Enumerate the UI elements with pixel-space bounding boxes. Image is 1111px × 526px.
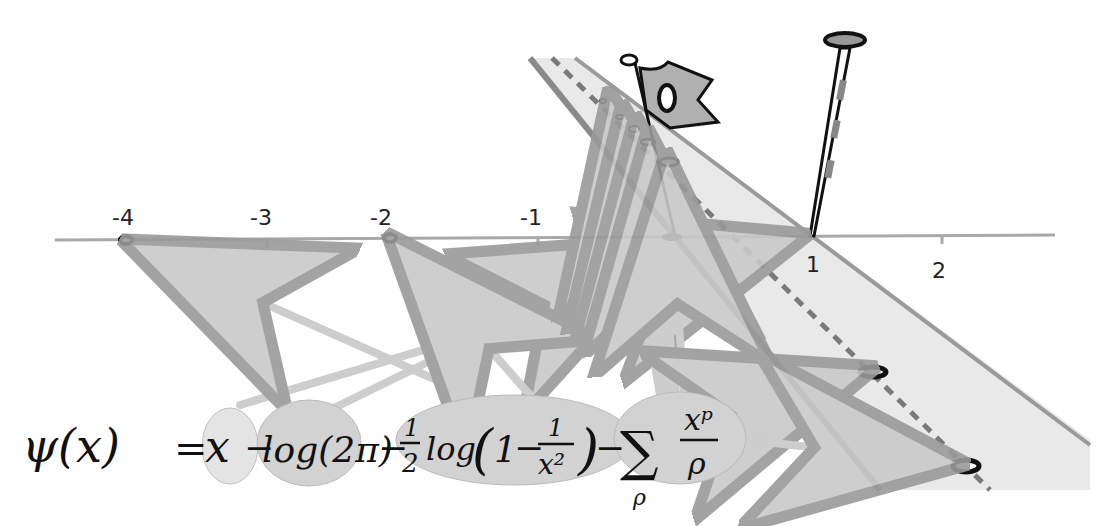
formula-half-den: 2 — [401, 448, 419, 478]
trivial-zero-minus4 — [120, 236, 132, 244]
formula-equals: = — [174, 425, 208, 471]
formula-paren-open: ( — [472, 418, 495, 481]
formula-frac-num: 1 — [548, 414, 563, 442]
formula-half-num: 1 — [404, 414, 419, 442]
tick-label-1: 1 — [806, 252, 820, 277]
formula-term-log2pi: log(2π) — [262, 429, 393, 470]
arrow-log2pi-to-0 — [330, 246, 665, 410]
pole-pin-icon — [810, 33, 865, 236]
formula-sum-sub: ρ — [632, 485, 646, 510]
formula-term-x: x — [205, 421, 230, 472]
formula-frac-den: x² — [538, 448, 565, 481]
number-line — [55, 235, 1055, 248]
formula-sum-den: ρ — [687, 446, 706, 481]
tick-label-minus4: -4 — [112, 205, 134, 230]
formula-log: log — [426, 430, 476, 468]
tick-label-minus1: -1 — [520, 205, 542, 230]
explicit-formula-diagram: -4 -3 -2 -1 1 2 — [0, 0, 1111, 526]
formula-sum-num: xᵖ — [684, 402, 713, 437]
formula-sum: ∑ — [620, 420, 659, 483]
tick-label-minus3: -3 — [250, 205, 272, 230]
formula-lhs: ψ(x) — [22, 419, 120, 473]
trivial-zero-minus2 — [384, 234, 396, 242]
tick-label-minus2: -2 — [370, 205, 392, 230]
tick-label-2: 2 — [932, 258, 946, 283]
